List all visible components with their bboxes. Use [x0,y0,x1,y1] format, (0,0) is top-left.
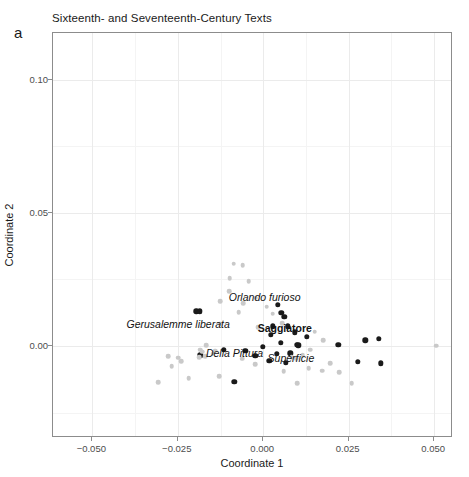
x-axis-tick-mark [348,437,349,441]
x-axis-tick-mark [177,437,178,441]
x-axis-tick-mark [91,437,92,441]
gridline-horizontal [53,213,451,214]
gridline-vertical [263,33,264,436]
y-axis-tick-label: 0.10 [30,73,49,84]
data-point-background-texts [169,364,174,369]
gridline-vertical [178,33,179,436]
scatter-plot-figure: a Sixteenth- and Seventeenth-Century Tex… [0,0,469,477]
x-axis-tick-label: −0.050 [77,443,106,454]
y-axis-tick-label: 0.00 [30,340,49,351]
x-axis-tick-mark [433,437,434,441]
data-point-background-texts [227,276,232,281]
data-point-background-texts [186,376,191,381]
data-point-background-texts [210,351,215,356]
data-point-highlighted-texts [278,340,283,345]
y-axis-tick-mark [48,79,52,80]
y-axis-title: Coordinate 2 [0,32,16,437]
x-axis-title: Coordinate 1 [52,457,452,469]
data-point-highlighted-texts [283,360,288,365]
data-point-background-texts [320,369,325,374]
data-point-background-texts [281,369,286,374]
data-point-highlighted-texts [355,359,360,364]
plot-panel: Orlando furiosoGerusalemme liberataSaggi… [52,32,452,437]
gridline-minor-horizontal [53,146,451,147]
data-point-background-texts [246,279,251,284]
data-point-background-texts [203,354,208,359]
data-point-background-texts [300,353,305,358]
gridline-minor-vertical [135,33,136,436]
data-point-background-texts [156,380,161,385]
data-point-background-texts [236,310,241,315]
data-point-background-texts [280,321,285,326]
gridline-horizontal [53,346,451,347]
data-point-highlighted-texts [243,348,248,353]
data-point-highlighted-texts [274,351,279,356]
data-point-background-texts [218,299,223,304]
data-point-highlighted-texts [304,334,309,339]
gridline-minor-horizontal [53,279,451,280]
data-point-background-texts [271,312,276,317]
x-axis-tick-label: −0.025 [162,443,191,454]
data-point-background-texts [231,261,236,266]
x-axis-tick-mark [262,437,263,441]
data-point-highlighted-texts [260,344,265,349]
data-point-background-texts [306,366,311,371]
data-point-background-texts [253,295,258,300]
data-point-background-texts [255,325,260,330]
data-point-background-texts [308,348,313,353]
data-point-background-texts [264,304,269,309]
data-point-highlighted-texts [197,308,202,313]
y-axis-tick-mark [48,345,52,346]
data-point-background-texts [197,355,202,360]
data-point-highlighted-texts [270,324,275,329]
gridline-vertical [349,33,350,436]
data-point-highlighted-texts [268,332,273,337]
gridline-vertical [434,33,435,436]
data-point-highlighted-texts [281,314,286,319]
data-point-background-texts [204,343,209,348]
y-axis-tick-label: 0.05 [30,206,49,217]
data-point-highlighted-texts [296,343,301,348]
data-point-background-texts [434,344,439,349]
gridline-horizontal [53,80,451,81]
data-point-background-texts [253,362,258,367]
data-point-background-texts [295,381,300,386]
data-point-highlighted-texts [267,358,272,363]
gridline-minor-vertical [391,33,392,436]
data-point-background-texts [240,263,245,268]
x-axis-tick-label: 0.000 [250,443,274,454]
data-point-highlighted-texts [292,330,297,335]
data-point-highlighted-texts [221,347,226,352]
data-point-background-texts [227,289,232,294]
chart-title: Sixteenth- and Seventeenth-Century Texts [52,12,272,24]
data-point-highlighted-texts [253,353,258,358]
data-point-highlighted-texts [362,338,367,343]
x-axis-tick-label: 0.050 [421,443,445,454]
gridline-minor-vertical [306,33,307,436]
data-point-background-texts [166,354,171,359]
data-point-background-texts [240,357,245,362]
data-point-highlighted-texts [376,336,381,341]
gridline-vertical [92,33,93,436]
data-point-background-texts [312,329,317,334]
data-point-background-texts [218,321,223,326]
data-point-highlighted-texts [231,379,236,384]
y-axis-tick-mark [48,212,52,213]
data-point-background-texts [337,370,342,375]
data-point-background-texts [350,381,355,386]
data-point-background-texts [241,301,246,306]
data-point-background-texts [217,374,222,379]
y-axis-title-text: Coordinate 2 [2,203,14,266]
gridline-minor-horizontal [53,413,451,414]
data-point-background-texts [179,359,184,364]
data-point-highlighted-texts [275,302,280,307]
x-axis-tick-label: 0.025 [336,443,360,454]
point-annotation-label: Orlando furioso [229,291,301,303]
data-point-background-texts [321,338,326,343]
data-point-highlighted-texts [285,324,290,329]
data-point-background-texts [328,361,333,366]
data-point-background-texts [294,356,299,361]
data-point-highlighted-texts [378,361,383,366]
